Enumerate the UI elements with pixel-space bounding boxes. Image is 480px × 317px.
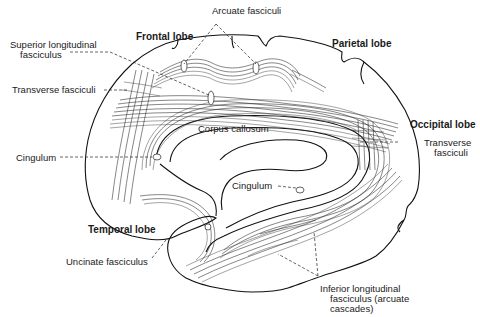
label-cingulum-center: Cingulum	[232, 181, 272, 191]
slf-marker	[208, 91, 214, 105]
leader-lines	[60, 24, 398, 276]
fornix-marker	[205, 224, 211, 230]
label-temporal-lobe: Temporal lobe	[88, 225, 156, 235]
parieto-occipital-notch	[361, 62, 364, 84]
label-uncinate-fasciculus: Uncinate fasciculus	[66, 257, 148, 267]
cingulum-marker-center	[296, 187, 304, 193]
label-transverse-fasciculi-left: Transverse fasciculi	[12, 85, 96, 95]
fornix	[160, 164, 216, 216]
label-slf-line2: fasciculus	[20, 50, 62, 60]
label-occipital-lobe: Occipital lobe	[410, 120, 476, 130]
label-corpus-callosum: Corpus callosum	[198, 124, 269, 134]
septum	[220, 140, 327, 210]
label-frontal-lobe: Frontal lobe	[136, 32, 193, 42]
transverse-fasciculi-right	[352, 120, 388, 170]
label-ilf-line3: cascades)	[330, 304, 373, 314]
inferior-longitudinal-fibers	[186, 164, 402, 282]
arcuate-marker-1	[181, 60, 187, 72]
label-transverse-right-line2: fasciculi	[434, 148, 468, 158]
label-arcuate-fasciculi: Arcuate fasciculi	[212, 6, 281, 16]
label-parietal-lobe: Parietal lobe	[332, 39, 391, 49]
cingulum-marker-left	[153, 154, 161, 160]
arcuate-fibers	[152, 59, 326, 92]
label-cingulum-left: Cingulum	[16, 153, 56, 163]
